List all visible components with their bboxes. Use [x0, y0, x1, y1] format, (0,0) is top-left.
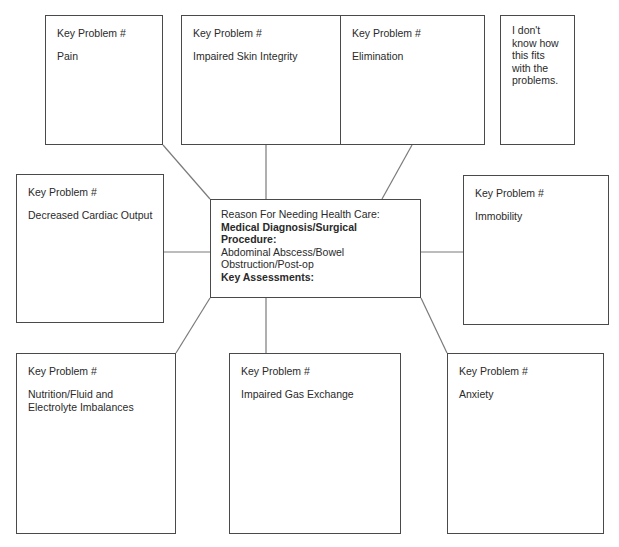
- problem-header: Key Problem #: [193, 27, 341, 40]
- problem-box-anxiety: Key Problem # Anxiety: [447, 353, 604, 534]
- diagnosis-label: Medical Diagnosis/Surgical Procedure:: [221, 221, 412, 246]
- problem-label: Nutrition/Fluid and Electrolyte Imbalanc…: [28, 388, 165, 414]
- problem-header: Key Problem #: [57, 27, 152, 40]
- problem-header: Key Problem #: [28, 365, 165, 378]
- problem-label: Decreased Cardiac Output: [28, 209, 153, 222]
- diagnosis-line-1: Abdominal Abscess/Bowel: [221, 246, 412, 259]
- problem-box-elimination: Key Problem # Elimination: [340, 15, 485, 145]
- problem-header: Key Problem #: [28, 186, 153, 199]
- problem-label: Anxiety: [459, 388, 593, 401]
- problem-box-nutrition-fluid-electrolyte: Key Problem # Nutrition/Fluid and Electr…: [16, 353, 176, 534]
- connector-pain: [163, 145, 210, 199]
- problem-box-impaired-skin-integrity: Key Problem # Impaired Skin Integrity: [181, 15, 352, 145]
- diagnosis-line-2: Obstruction/Post-op: [221, 258, 412, 271]
- problem-header: Key Problem #: [241, 365, 390, 378]
- problem-label: Impaired Gas Exchange: [241, 388, 390, 401]
- problem-box-impaired-gas-exchange: Key Problem # Impaired Gas Exchange: [229, 353, 401, 534]
- problem-label: Immobility: [475, 210, 598, 223]
- unlinked-note-text: I don't know how this fits with the prob…: [512, 24, 566, 87]
- unlinked-note-box: I don't know how this fits with the prob…: [500, 15, 575, 145]
- reason-label: Reason For Needing Health Care:: [221, 208, 412, 221]
- problem-label: Impaired Skin Integrity: [193, 50, 341, 63]
- problem-box-decreased-cardiac-output: Key Problem # Decreased Cardiac Output: [16, 174, 164, 323]
- problem-header: Key Problem #: [459, 365, 593, 378]
- problem-header: Key Problem #: [352, 27, 474, 40]
- central-diagnosis-box: Reason For Needing Health Care: Medical …: [210, 199, 421, 298]
- problem-box-pain: Key Problem # Pain: [45, 15, 163, 145]
- problem-box-immobility: Key Problem # Immobility: [463, 175, 609, 325]
- problem-label: Pain: [57, 50, 152, 63]
- assessments-label: Key Assessments:: [221, 271, 412, 284]
- connector-nutrition: [176, 298, 210, 353]
- problem-header: Key Problem #: [475, 187, 598, 200]
- connector-elimination: [382, 145, 412, 199]
- connector-anxiety: [421, 298, 447, 353]
- problem-label: Elimination: [352, 50, 474, 63]
